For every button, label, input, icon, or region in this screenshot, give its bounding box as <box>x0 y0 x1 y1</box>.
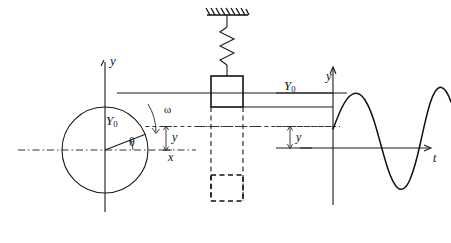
wave-amplitude-label: Y0 <box>284 79 296 94</box>
phasor-y-axis-tick <box>101 60 104 66</box>
omega-label: ω <box>164 104 171 115</box>
phasor-amplitude-subscript: 0 <box>113 119 117 129</box>
theta-label: θ <box>129 136 135 148</box>
wave-t-axis-label: t <box>433 152 436 164</box>
sine-wave-curve <box>333 87 451 189</box>
phasor-amplitude-label: Y0 <box>106 114 118 129</box>
wave-y-axis-label: y <box>326 69 332 82</box>
support-hatching <box>206 8 249 15</box>
figure-canvas <box>0 0 451 243</box>
phasor-radius-vector <box>105 134 145 150</box>
coil-spring <box>220 27 234 65</box>
wave-panel <box>276 67 451 205</box>
phasor-projection-label: y <box>172 131 177 143</box>
shm-figure: y x Y0 θ ω y Y0 y y t <box>0 0 451 243</box>
wave-amplitude-subscript: 0 <box>291 84 295 94</box>
wave-displacement-label: y <box>296 131 301 143</box>
oscillator-panel <box>196 8 333 201</box>
displaced-mass-block <box>211 175 243 201</box>
phasor-y-axis-label: y <box>110 54 116 67</box>
mass-block <box>211 76 243 107</box>
phasor-x-axis-label: x <box>168 151 173 163</box>
